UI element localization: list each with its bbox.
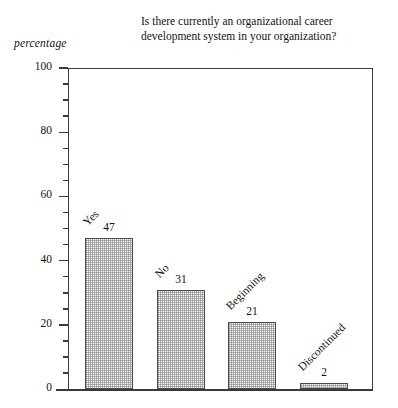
bar [300, 383, 348, 389]
y-tick-label: 100 [12, 60, 52, 72]
y-tick-major [59, 132, 68, 133]
y-tick-minor [63, 148, 68, 149]
y-tick-major [59, 260, 68, 261]
bar-chart-figure: percentage Is there currently an organiz… [0, 0, 398, 408]
y-tick-label: 60 [12, 188, 52, 200]
y-tick-major [59, 67, 68, 68]
y-tick-label: 80 [12, 124, 52, 136]
y-tick-minor [63, 164, 68, 165]
bar [228, 322, 276, 389]
y-tick-minor [63, 115, 68, 116]
y-tick-minor [63, 340, 68, 341]
bar [85, 238, 133, 389]
y-tick-label: 0 [12, 381, 52, 393]
y-tick-major [59, 389, 68, 390]
chart-title: Is there currently an organizational car… [141, 14, 371, 44]
bar [157, 290, 205, 390]
y-tick-minor [63, 276, 68, 277]
y-tick-minor [63, 308, 68, 309]
y-tick-minor [63, 228, 68, 229]
y-tick-minor [63, 212, 68, 213]
y-tick-minor [63, 99, 68, 100]
x-axis-baseline [56, 389, 373, 391]
y-axis-title: percentage [14, 37, 67, 49]
y-tick-minor [63, 180, 68, 181]
y-tick-label: 40 [12, 253, 52, 265]
y-tick-label: 20 [12, 317, 52, 329]
y-tick-major [59, 196, 68, 197]
y-tick-minor [63, 292, 68, 293]
y-tick-minor [63, 83, 68, 84]
y-tick-minor [63, 356, 68, 357]
y-tick-minor [63, 244, 68, 245]
y-tick-minor [63, 372, 68, 373]
y-tick-major [59, 324, 68, 325]
